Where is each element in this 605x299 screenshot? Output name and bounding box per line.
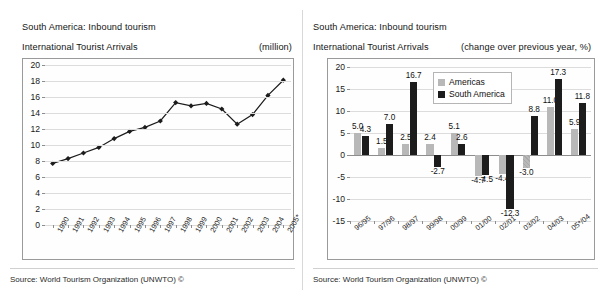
bar-chart-y-tick-label: 5 — [328, 129, 345, 138]
line-chart-x-tickmark — [176, 225, 177, 228]
bar-chart-x-tick-label: 99/98 — [425, 215, 444, 232]
line-chart-gridline — [45, 65, 291, 66]
line-chart-y-tick-label: 4 — [23, 189, 40, 198]
line-chart-gridline — [45, 177, 291, 178]
bar-chart-x-tick-label: 00/99 — [449, 215, 468, 232]
line-chart-x-tickmark — [206, 225, 207, 228]
line-chart-y-tick-label: 10 — [23, 141, 40, 150]
bar-chart-x-tickmark — [567, 221, 568, 224]
line-chart-x-tickmark — [283, 225, 284, 228]
line-chart-y-tickmark — [42, 129, 45, 130]
line-chart-x-tickmark — [53, 225, 54, 228]
bar-chart-x-tick-label: 98/97 — [401, 215, 420, 232]
bar-south-america — [410, 82, 417, 156]
line-chart-y-tick-label: 0 — [23, 221, 40, 230]
line-chart-gridline — [45, 113, 291, 114]
bar-chart-y-tickmark — [347, 67, 350, 68]
bar-chart-y-tickmark — [347, 155, 350, 156]
bar-chart-y-tick-label: 20 — [328, 63, 345, 72]
chart-legend: AmericasSouth America — [433, 72, 512, 104]
bar-chart-x-tickmark — [519, 221, 520, 224]
line-chart-gridline — [45, 145, 291, 146]
line-chart-y-tick-label: 2 — [23, 205, 40, 214]
legend-swatch-americas-icon — [438, 79, 445, 86]
legend-item: South America — [438, 88, 505, 100]
bar-chart-x-tick-label: 05*/04 — [570, 213, 591, 232]
bar-value-label: 2.6 — [449, 134, 475, 142]
line-chart-y-tickmark — [42, 65, 45, 66]
right-source-note: Source: World Tourism Organization (UNWT… — [313, 275, 487, 284]
line-chart-y-tickmark — [42, 177, 45, 178]
bar-south-america — [434, 155, 441, 167]
bar-south-america — [458, 144, 465, 155]
bar-chart-x-tickmark — [398, 221, 399, 224]
line-chart-y-tick-label: 6 — [23, 173, 40, 182]
line-chart-gridline — [45, 97, 291, 98]
bar-value-label: -12.3 — [497, 210, 523, 218]
line-chart-y-tickmark — [42, 161, 45, 162]
line-chart-y-tick-label: 12 — [23, 125, 40, 134]
line-chart-gridline — [45, 129, 291, 130]
bar-south-america — [362, 136, 369, 155]
line-chart-y-tick-label: 20 — [23, 61, 40, 70]
line-chart-x-tickmark — [83, 225, 84, 228]
bar-americas — [571, 129, 578, 155]
line-chart-y-tick-label: 16 — [23, 93, 40, 102]
line-chart-x-tickmark — [222, 225, 223, 228]
bar-value-label: 4.3 — [352, 126, 378, 134]
bar-value-label: 17.3 — [545, 69, 571, 77]
legend-label: Americas — [449, 77, 485, 87]
bar-chart-x-tick-label: 03/02 — [522, 215, 541, 232]
bar-south-america — [506, 155, 513, 209]
bar-americas — [499, 155, 506, 174]
right-source-rule — [313, 268, 598, 269]
line-chart-y-tickmark — [42, 81, 45, 82]
bar-chart-y-tick-label: -10 — [328, 195, 345, 204]
bar-chart-y-tickmark — [347, 199, 350, 200]
bar-chart-y-tickmark — [347, 177, 350, 178]
bar-chart-x-tick-label: 97/96 — [377, 215, 396, 232]
bar-americas — [354, 133, 361, 155]
bar-americas — [402, 144, 409, 155]
bar-chart-x-tick-label: 01/00 — [474, 215, 493, 232]
line-chart-gridline — [45, 161, 291, 162]
bar-value-label: 8.8 — [521, 106, 547, 114]
legend-label: South America — [449, 89, 505, 99]
bar-chart-y-tickmark — [347, 111, 350, 112]
bar-south-america — [386, 124, 393, 155]
bar-chart-x-tickmark — [495, 221, 496, 224]
line-chart-y-tickmark — [42, 209, 45, 210]
bar-chart-y-tickmark — [347, 133, 350, 134]
bar-americas — [426, 144, 433, 155]
line-chart-y-tickmark — [42, 193, 45, 194]
bar-chart-x-tickmark — [471, 221, 472, 224]
line-chart-y-tick-label: 8 — [23, 157, 40, 166]
line-chart-y-tickmark — [42, 113, 45, 114]
bar-value-label: 16.7 — [401, 72, 427, 80]
line-chart-x-tickmark — [160, 225, 161, 228]
left-chart-panel: South America: Inbound tourism Internati… — [0, 0, 302, 299]
bar-americas — [523, 155, 530, 168]
bar-south-america — [555, 79, 562, 155]
line-chart-gridline — [45, 209, 291, 210]
line-chart-x-tickmark — [145, 225, 146, 228]
line-chart-y-tick-label: 14 — [23, 109, 40, 118]
bar-chart-y-tick-label: -15 — [328, 217, 345, 226]
bar-value-label: -4.5 — [473, 176, 499, 184]
bar-chart-x-tickmark — [446, 221, 447, 224]
bar-chart-y-tickmark — [347, 89, 350, 90]
bar-south-america — [579, 103, 586, 155]
legend-item: Americas — [438, 76, 505, 88]
line-chart-plot-area: 0246810121416182019901991199219931994199… — [22, 58, 294, 260]
bar-chart-x-tickmark — [543, 221, 544, 224]
bar-value-label: 5.1 — [441, 123, 467, 131]
line-chart-x-tickmark — [253, 225, 254, 228]
left-source-rule — [10, 268, 295, 269]
line-chart-x-tickmark — [68, 225, 69, 228]
right-chart-subtitle: International Tourist Arrivals — [313, 42, 429, 52]
line-chart-x-tickmark — [237, 225, 238, 228]
bar-south-america — [482, 155, 489, 175]
right-chart-title: South America: Inbound tourism — [313, 22, 447, 32]
bar-chart-x-tickmark — [422, 221, 423, 224]
bar-chart-gridline — [350, 199, 591, 200]
